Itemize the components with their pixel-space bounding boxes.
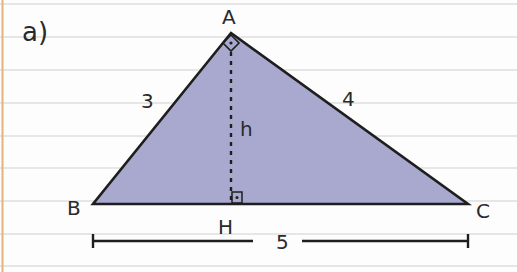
exercise-label: a) xyxy=(22,17,48,47)
side-label-ab: 3 xyxy=(141,89,154,113)
triangle-diagram: a) A B C H 3 4 h 5 xyxy=(0,0,517,272)
diagram-page: a) A B C H 3 4 h 5 xyxy=(0,0,517,272)
height-label-h: h xyxy=(240,117,253,141)
foot-label-h: H xyxy=(218,215,233,239)
vertex-label-b: B xyxy=(67,196,81,220)
vertex-label-c: C xyxy=(476,199,490,223)
triangle-abc xyxy=(93,33,468,204)
vertex-label-a: A xyxy=(222,5,236,29)
dimension-label-bc: 5 xyxy=(276,230,289,254)
side-label-ac: 4 xyxy=(342,87,355,111)
